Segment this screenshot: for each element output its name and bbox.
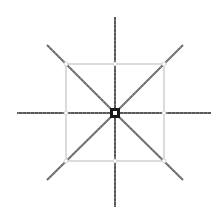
node-top-mid	[113, 62, 117, 66]
node-bottom-left	[64, 159, 68, 163]
node-bottom-mid	[113, 159, 117, 163]
node-top-left	[64, 62, 68, 66]
spoke-south-east	[115, 113, 183, 180]
center-box-inner	[113, 111, 117, 115]
center-box	[110, 108, 120, 118]
spoke-diagram	[0, 0, 222, 214]
node-bottom-right	[162, 159, 166, 163]
node-top-right	[162, 62, 166, 66]
node-mid-right	[162, 111, 166, 115]
node-mid-left	[64, 111, 68, 115]
